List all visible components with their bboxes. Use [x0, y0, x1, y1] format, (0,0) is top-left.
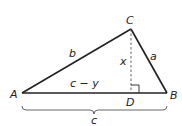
side-c-label: c — [91, 114, 97, 126]
side-bc — [131, 29, 167, 93]
side-b-label: b — [69, 47, 76, 60]
brace-c — [22, 106, 167, 114]
triangle-diagram: A B C D b a x c − y c — [0, 0, 182, 126]
side-a-label: a — [150, 50, 157, 63]
vertex-c-label: C — [126, 14, 134, 27]
segment-c-minus-y-label: c − y — [70, 77, 99, 90]
vertex-d-label: D — [126, 96, 134, 109]
altitude-x-label: x — [119, 55, 127, 68]
vertex-a-label: A — [9, 88, 18, 101]
vertex-b-label: B — [170, 89, 178, 102]
right-angle-marker — [131, 85, 139, 93]
